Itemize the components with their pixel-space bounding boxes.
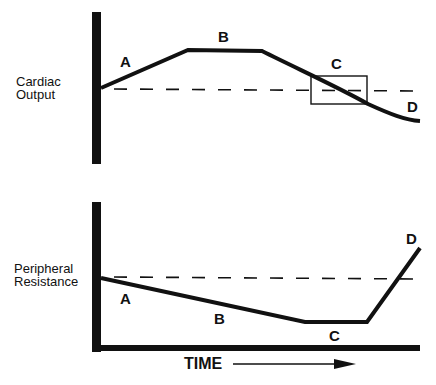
time-arrow-head-icon xyxy=(334,359,356,369)
peripheral-resistance-curve xyxy=(101,248,420,322)
time-axis-label: TIME xyxy=(184,355,356,372)
top-baseline-dashed xyxy=(114,89,420,91)
bottom-point-d: D xyxy=(406,230,417,247)
top-y-axis xyxy=(92,12,101,164)
hemodynamics-diagram: Cardiac Output A B C D Peripheral Resist… xyxy=(0,0,436,385)
bottom-point-b: B xyxy=(214,310,225,327)
top-point-a: A xyxy=(120,53,131,70)
top-point-c: C xyxy=(331,55,342,72)
cardiac-output-label-2: Output xyxy=(16,87,55,102)
top-point-b: B xyxy=(218,28,229,45)
bottom-point-c: C xyxy=(329,327,340,344)
peripheral-resistance-panel: Peripheral Resistance A B C D xyxy=(14,202,420,352)
time-label: TIME xyxy=(184,355,223,372)
peripheral-resistance-label-2: Resistance xyxy=(14,274,78,289)
x-axis xyxy=(92,345,420,351)
cardiac-output-curve xyxy=(101,50,420,121)
bottom-point-a: A xyxy=(120,290,131,307)
top-point-d: D xyxy=(407,98,418,115)
bottom-baseline-dashed xyxy=(114,277,420,279)
bottom-y-axis xyxy=(92,202,101,352)
cardiac-output-panel: Cardiac Output A B C D xyxy=(16,12,420,164)
